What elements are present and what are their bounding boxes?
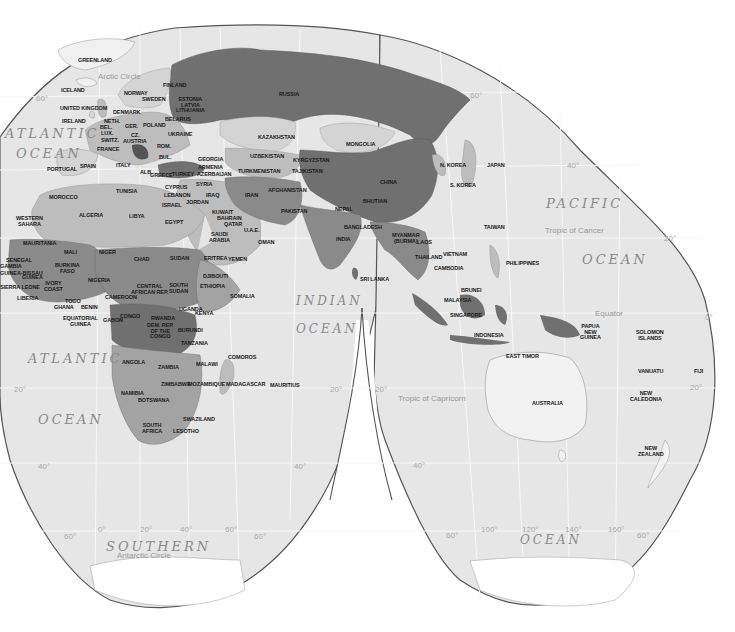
country-label-lesotho: LESOTHO bbox=[173, 429, 199, 435]
degree-label: 40° bbox=[294, 462, 306, 471]
country-label-lux: LUX. bbox=[101, 131, 113, 137]
country-label-iran: IRAN bbox=[245, 193, 258, 199]
country-label-malaysia: MALAYSIA bbox=[444, 298, 471, 304]
country-label-ger: GER. bbox=[125, 124, 138, 130]
country-label-united-kingdom: UNITED KINGDOM bbox=[60, 106, 107, 112]
country-label-kenya: KENYA bbox=[195, 311, 213, 317]
country-label-kyrgyzstan: KYRGYZSTAN bbox=[293, 158, 329, 164]
degree-label: 0° bbox=[705, 313, 713, 322]
country-label-israel: ISRAEL bbox=[162, 203, 182, 209]
country-label-uzbekistan: UZBEKISTAN bbox=[250, 154, 284, 160]
country-label-iceland: ICELAND bbox=[61, 88, 85, 94]
country-label-bul: BUL. bbox=[159, 155, 171, 161]
country-label-singapore: SINGAPORE bbox=[450, 313, 482, 319]
country-label-russia: RUSSIA bbox=[279, 92, 299, 98]
country-label-s-korea: S. KOREA bbox=[450, 183, 476, 189]
country-label-djibouti: DJIBOUTI bbox=[203, 274, 228, 280]
country-label-n-korea: N. KOREA bbox=[440, 163, 466, 169]
country-label-japan: JAPAN bbox=[487, 163, 505, 169]
ocean-label-indian-1: INDIAN bbox=[296, 294, 363, 308]
line-label-tropic-cancer: Tropic of Cancer bbox=[545, 226, 604, 235]
degree-label: 120° bbox=[522, 525, 539, 534]
country-label-angola: ANGOLA bbox=[122, 360, 145, 366]
ocean-label-pacific-1: PACIFIC bbox=[546, 196, 623, 211]
country-label-bhutian: BHUTIAN bbox=[363, 199, 387, 205]
country-label-vanuatu: VANUATU bbox=[638, 369, 663, 375]
country-label-mongolia: MONGOLIA bbox=[346, 142, 375, 148]
country-label-egypt: EGYPT bbox=[165, 220, 183, 226]
ocean-label-atlantic-n-2: OCEAN bbox=[16, 146, 82, 161]
degree-label: 0° bbox=[98, 525, 106, 534]
country-label-south-sudan: SOUTH SUDAN bbox=[169, 283, 188, 294]
world-map bbox=[0, 0, 735, 632]
country-label-chad: CHAD bbox=[134, 257, 150, 263]
degree-label: 60° bbox=[64, 532, 76, 541]
degree-label: 20° bbox=[140, 525, 152, 534]
ocean-label-indian-2: OCEAN bbox=[296, 322, 358, 336]
country-label-equatorial-guinea: EQUATORIAL GUINEA bbox=[63, 316, 98, 327]
degree-label: 100° bbox=[481, 525, 498, 534]
ocean-label-atlantic-s-1: ATLANTIC bbox=[28, 351, 123, 366]
country-label-south-africa: SOUTH AFRICA bbox=[142, 423, 162, 434]
line-label-arctic-circle: Arctic Circle bbox=[98, 72, 141, 81]
country-label-central-african-rep: CENTRAL AFRICAN REP. bbox=[131, 284, 168, 295]
degree-label: 60° bbox=[225, 525, 237, 534]
degree-label: 20° bbox=[664, 234, 676, 243]
line-label-tropic-capricorn: Tropic of Capricorn bbox=[398, 394, 466, 403]
country-label-tunisia: TUNISIA bbox=[116, 189, 137, 195]
country-label-papua-new-guinea: PAPUA NEW GUINEA bbox=[580, 324, 601, 341]
country-label-libya: LIBYA bbox=[129, 214, 145, 220]
country-label-belarus: BELARUS bbox=[165, 117, 191, 123]
country-label-georgia: GEORGIA bbox=[198, 157, 223, 163]
country-label-kazakhstan: KAZAKHSTAN bbox=[258, 135, 295, 141]
country-label-madagascar: MADAGASCAR bbox=[226, 382, 265, 388]
country-label-benin: BENIN bbox=[81, 305, 98, 311]
country-label-swaziland: SWAZILAND bbox=[183, 417, 215, 423]
country-label-syria: SYRIA bbox=[196, 182, 212, 188]
country-label-nepal: NEPAL bbox=[335, 207, 353, 213]
country-label-tanzania: TANZANIA bbox=[181, 341, 208, 347]
ocean-label-southern-2: OCEAN bbox=[520, 533, 582, 547]
country-label-austria: AUSTRIA bbox=[123, 139, 147, 145]
country-label-ethiopia: ETHIOPIA bbox=[200, 284, 225, 290]
country-label-mali: MALI bbox=[64, 250, 77, 256]
line-label-antarctic-circle: Antarctic Circle bbox=[117, 551, 171, 560]
country-label-turkey: TURKEY bbox=[172, 172, 194, 178]
country-label-greenland: GREENLAND bbox=[78, 58, 112, 64]
country-label-rwanda: RWANDA bbox=[151, 316, 175, 322]
country-label-indonesia: INDONESIA bbox=[474, 333, 504, 339]
country-label-gambia: GAMBIA bbox=[0, 264, 22, 270]
country-label-congo: CONGO bbox=[120, 314, 140, 320]
country-label-sudan: SUDAN bbox=[170, 256, 189, 262]
country-label-dem-rep-of-the-congo: DEM. REP. OF THE CONGO bbox=[147, 323, 174, 340]
country-label-east-timor: EAST TIMOR bbox=[506, 354, 539, 360]
country-label-fiji: FIJI bbox=[694, 369, 703, 375]
country-label-new-caledonia: NEW CALEDONIA bbox=[630, 391, 662, 402]
country-label-afghanistan: AFGHANISTAN bbox=[268, 188, 307, 194]
country-label-armenia: ARMENIA bbox=[198, 165, 223, 171]
degree-label: 60° bbox=[446, 531, 458, 540]
country-label-zimbabwe: ZIMBABWE bbox=[161, 382, 190, 388]
line-label-equator: Equator bbox=[595, 309, 623, 318]
degree-label: 60° bbox=[637, 531, 649, 540]
country-label-morocco: MOROCCO bbox=[49, 195, 78, 201]
country-label-ukraine: UKRAINE bbox=[168, 132, 192, 138]
country-label-denmark: DENMARK bbox=[113, 110, 140, 116]
country-label-india: INDIA bbox=[336, 237, 350, 243]
country-label-poland: POLAND bbox=[143, 123, 166, 129]
country-label-tajikistan: TAJIKISTAN bbox=[292, 169, 323, 175]
country-label-comoros: COMOROS bbox=[228, 355, 256, 361]
country-label-finland: FINLAND bbox=[163, 83, 186, 89]
country-label-ivory-coast: IVORY COAST bbox=[44, 281, 63, 292]
country-label-zambia: ZAMBIA bbox=[158, 365, 179, 371]
country-label-ghana: GHANA bbox=[54, 305, 74, 311]
country-label-oman: OMAN bbox=[258, 240, 274, 246]
country-label-myanmar-burma: MYANMAR (BURMA) bbox=[392, 233, 420, 244]
country-label-sri-lanka: SRI LANKA bbox=[360, 277, 389, 283]
country-label-namibia: NAMIBIA bbox=[121, 391, 144, 397]
degree-label: 60° bbox=[470, 91, 482, 100]
degree-label: 40° bbox=[413, 461, 425, 470]
country-label-cyprus: CYPRUS bbox=[165, 185, 187, 191]
country-label-solomon-islands: SOLOMON ISLANDS bbox=[636, 330, 664, 341]
country-label-mauritius: MAURITIUS bbox=[270, 383, 300, 389]
